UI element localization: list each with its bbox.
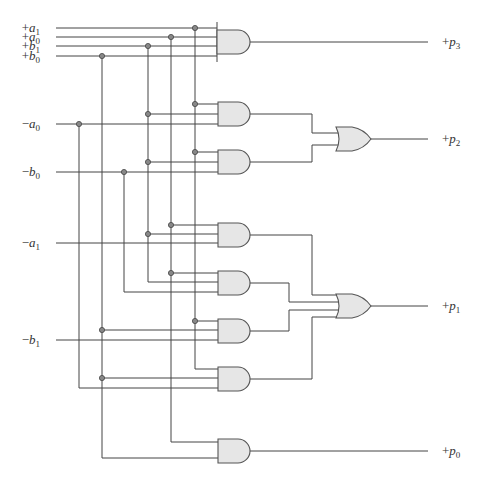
and-gate-3 xyxy=(218,150,250,174)
or-gate-p1 xyxy=(336,294,371,318)
output-labels: +p3 +p2 +p1 +p0 xyxy=(442,34,461,460)
input-label-na1: −a1 xyxy=(22,235,40,252)
and-gates xyxy=(217,22,250,463)
output-label-p1: +p1 xyxy=(442,298,460,315)
output-label-p0: +p0 xyxy=(442,443,461,460)
or-gate-p2 xyxy=(336,127,371,151)
output-label-p3: +p3 xyxy=(442,34,461,51)
junction-dots xyxy=(76,25,197,380)
input-label-nb0: −b0 xyxy=(22,164,41,181)
output-label-p2: +p2 xyxy=(442,131,460,148)
input-labels: +a1 +a0 +b1 +b0 −a0 −b0 −a1 −b1 xyxy=(22,20,41,349)
or-gates xyxy=(336,127,371,318)
and-gate-p0 xyxy=(218,439,250,463)
logic-circuit-diagram: +a1 +a0 +b1 +b0 −a0 −b0 −a1 −b1 +p3 +p2 … xyxy=(0,0,485,481)
and-gate-4 xyxy=(218,223,250,247)
input-label-na0: −a0 xyxy=(22,116,41,133)
and-gate-5 xyxy=(218,271,250,295)
and-gate-7 xyxy=(218,367,250,391)
and-gate-p3 xyxy=(217,30,250,54)
and-gate-6 xyxy=(218,319,250,343)
input-label-nb1: −b1 xyxy=(22,332,40,349)
and-gate-2 xyxy=(218,102,250,126)
